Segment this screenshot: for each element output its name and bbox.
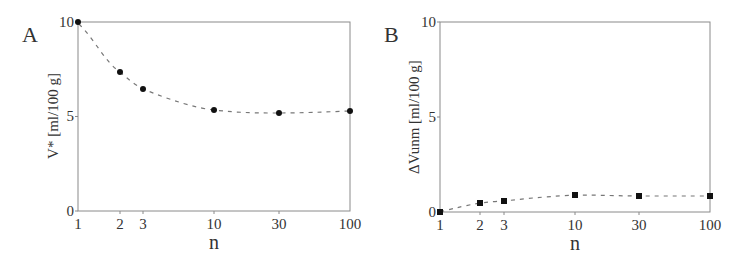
panel-b-xtick-100: 100 <box>699 217 722 233</box>
panel-b-label: B <box>384 22 399 47</box>
panel-b-xtick-30: 30 <box>632 217 647 233</box>
panel-a-ytick-10: 10 <box>59 14 74 30</box>
data-point <box>347 108 353 114</box>
panel-a-markers <box>75 19 353 116</box>
figure: A 10 5 0 1 2 3 10 30 100 n V* [ml/100 g] <box>0 0 741 263</box>
data-point <box>140 86 146 92</box>
panel-a-xlabel: n <box>209 231 219 253</box>
panel-a-ytick-0: 0 <box>67 203 75 219</box>
panel-b-xticks: 1 2 3 10 30 100 <box>436 212 721 233</box>
data-point <box>75 19 81 25</box>
panel-b-xlabel: n <box>570 232 580 254</box>
panel-a-fit-curve <box>79 24 350 113</box>
data-point <box>572 192 578 198</box>
panel-b-ytick-10: 10 <box>421 14 436 30</box>
panel-b-xtick-2: 2 <box>476 217 484 233</box>
panel-a-xtick-100: 100 <box>339 216 362 232</box>
data-point <box>707 193 713 199</box>
panel-a-ylabel: V* [ml/100 g] <box>45 73 61 159</box>
panel-a-label: A <box>22 22 38 47</box>
data-point <box>211 107 217 113</box>
panel-a-xtick-1: 1 <box>74 216 82 232</box>
data-point <box>501 198 507 204</box>
panel-a-xtick-3: 3 <box>139 216 147 232</box>
data-point <box>477 200 483 206</box>
panel-b-xtick-1: 1 <box>436 217 444 233</box>
panel-a-ytick-5: 5 <box>67 108 75 124</box>
panel-b-ytick-5: 5 <box>429 109 437 125</box>
panel-b-xtick-10: 10 <box>568 217 583 233</box>
panel-b: B 10 5 0 1 2 3 10 30 100 n ΔVunm [ml/100… <box>384 14 721 254</box>
panel-b-ylabel: ΔVunm [ml/100 g] <box>406 60 422 174</box>
data-point <box>437 209 443 215</box>
panel-a-xtick-2: 2 <box>116 216 124 232</box>
data-point <box>276 110 282 116</box>
data-point <box>117 69 123 75</box>
panel-a-xtick-30: 30 <box>272 216 287 232</box>
panel-b-ytick-0: 0 <box>429 204 437 220</box>
panel-a: A 10 5 0 1 2 3 10 30 100 n V* [ml/100 g] <box>22 14 361 253</box>
panel-b-xtick-3: 3 <box>500 217 508 233</box>
data-point <box>636 193 642 199</box>
panel-a-xticks: 1 2 3 10 30 100 <box>74 211 361 232</box>
panel-a-xtick-10: 10 <box>207 216 222 232</box>
panel-b-plot-frame <box>440 22 710 212</box>
panel-a-plot-frame <box>78 22 350 211</box>
